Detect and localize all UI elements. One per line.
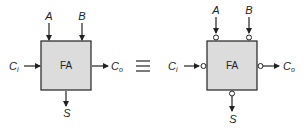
left-full-adder: FA A B Ci Co S [9,10,123,119]
left-output-co-label: Co [111,60,123,73]
right-fa-label: FA [226,60,239,71]
right-full-adder-inverted: FA A B Ci Co S [168,4,295,125]
equivalence-symbol [136,61,150,71]
right-output-s-bubble [230,91,235,96]
right-output-s-label: S [229,113,237,125]
right-input-ci-bubble [201,64,206,69]
right-output-co-bubble [258,64,263,69]
right-output-co-label: Co [283,60,295,73]
left-input-ci-label: Ci [9,60,19,73]
full-adder-equivalence-diagram: FA A B Ci Co S FA A B Ci Co S [0,0,307,131]
left-input-b-label: B [78,10,85,22]
left-output-s-label: S [63,107,71,119]
left-input-a-label: A [44,10,52,22]
right-input-b-bubble [247,35,252,40]
right-input-b-label: B [245,4,252,16]
right-input-ci-label: Ci [168,60,178,73]
right-input-a-label: A [211,4,219,16]
left-fa-label: FA [60,60,73,71]
right-input-a-bubble [214,35,219,40]
